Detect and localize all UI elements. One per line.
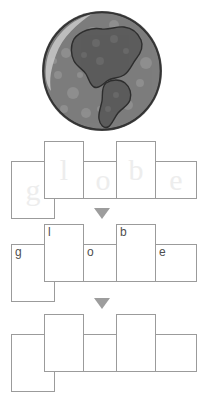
trace-box-b[interactable]: b	[116, 141, 156, 199]
trace-box-l[interactable]: l	[44, 141, 84, 199]
trace-letter-e: e	[156, 162, 196, 198]
copy-letter-g: g	[15, 245, 22, 259]
copy-letter-o: o	[87, 245, 94, 259]
trace-letter-l: l	[45, 142, 83, 198]
copy-box-b[interactable]: b	[116, 224, 156, 282]
trace-letter-b: b	[117, 142, 155, 198]
copy-letter-b: b	[120, 225, 127, 239]
write-row	[0, 314, 206, 380]
copy-box-l[interactable]: l	[44, 224, 84, 282]
copy-row: g l o b e	[0, 224, 206, 290]
write-box-2[interactable]	[44, 314, 84, 372]
globe-svg	[40, 9, 164, 133]
trace-row: g l o b e	[0, 141, 206, 207]
copy-letter-l: l	[48, 225, 51, 239]
globe-illustration	[40, 9, 164, 133]
step-arrow-2-icon	[94, 298, 110, 309]
step-arrow-1-icon	[94, 208, 110, 219]
copy-letter-e: e	[159, 245, 166, 259]
trace-box-e[interactable]: e	[155, 161, 197, 199]
write-box-5[interactable]	[155, 334, 197, 372]
copy-box-e[interactable]: e	[155, 244, 197, 282]
write-box-4[interactable]	[116, 314, 156, 372]
